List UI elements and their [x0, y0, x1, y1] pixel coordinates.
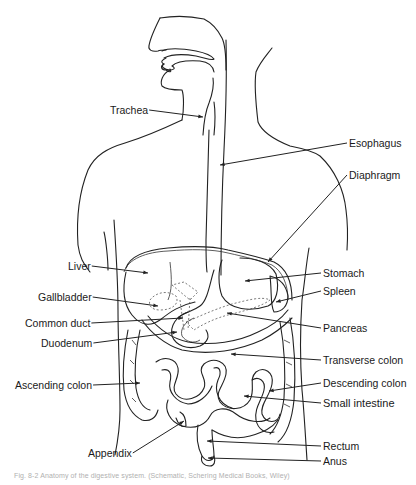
leader-small-intestine: [244, 396, 321, 403]
label-diaphragm: Diaphragm: [349, 169, 400, 181]
leader-transverse-colon: [231, 354, 321, 360]
label-ascending-colon: Ascending colon: [15, 379, 92, 391]
arrowhead-icon: [207, 439, 212, 443]
label-small-intestine: Small intestine: [323, 397, 395, 409]
arrowhead-icon: [208, 456, 213, 460]
label-spleen: Spleen: [323, 285, 356, 297]
label-trachea: Trachea: [110, 104, 148, 116]
arrowhead-icon: [231, 352, 236, 356]
label-stomach: Stomach: [323, 267, 364, 279]
leader-esophagus: [220, 143, 347, 165]
leader-rectum: [207, 441, 321, 446]
leader-anus: [208, 458, 321, 461]
digestive-system-diagram: Trachea Esophagus Diaphragm Liver Stomac…: [0, 0, 416, 485]
leader-appendix: [133, 421, 184, 453]
leader-trachea: [149, 110, 203, 117]
leader-ascending-colon: [93, 383, 140, 385]
leader-pancreas: [227, 313, 321, 328]
label-gallbladder: Gallbladder: [38, 291, 92, 303]
leader-stomach: [245, 273, 321, 281]
label-esophagus: Esophagus: [349, 137, 402, 149]
label-pancreas: Pancreas: [323, 322, 367, 334]
leader-liver: [92, 266, 148, 273]
label-rectum: Rectum: [323, 440, 359, 452]
label-anus: Anus: [323, 455, 347, 467]
arrowhead-icon: [220, 162, 225, 166]
arrowhead-icon: [172, 331, 177, 335]
leader-diaphragm: [268, 175, 347, 262]
figure-caption: Fig. 8-2 Anatomy of the digestive system…: [14, 472, 290, 479]
leader-common-duct: [91, 318, 183, 323]
leader-spleen: [276, 291, 321, 302]
anatomy-drawing: [0, 0, 416, 485]
leader-gallbladder: [93, 297, 158, 306]
label-transverse-colon: Transverse colon: [323, 354, 403, 366]
label-descending-colon: Descending colon: [323, 377, 406, 389]
label-duodenum: Duodenum: [41, 337, 92, 349]
arrowhead-icon: [153, 304, 158, 308]
label-appendix: Appendix: [88, 447, 132, 459]
arrowhead-icon: [135, 381, 140, 385]
label-common-duct: Common duct: [25, 317, 90, 329]
label-liver: Liver: [68, 260, 91, 272]
